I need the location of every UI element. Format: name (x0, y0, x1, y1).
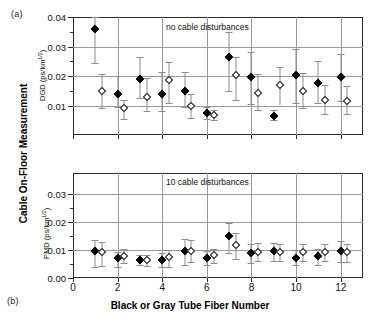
error-bar-cap (344, 262, 351, 263)
error-bar-cap (232, 100, 239, 101)
error-bar-cap (121, 100, 128, 101)
error-bar-cap (277, 261, 284, 262)
data-point-open-diamond (232, 241, 240, 249)
data-point-open-diamond (276, 248, 284, 256)
error-bar-cap (299, 261, 306, 262)
chart-panel-b: 0.000.010.020.03024681012 10 cable distu… (73, 173, 363, 278)
error-bar-cap (114, 267, 121, 268)
error-bar-cap (99, 74, 106, 75)
data-layer-b (73, 173, 363, 278)
x-tick-label: 12 (335, 282, 346, 293)
x-tick (118, 135, 119, 139)
data-point-filled-diamond (113, 89, 121, 97)
data-point-filled-diamond (270, 112, 278, 120)
x-tick-label: 4 (159, 282, 165, 293)
error-bar-cap (159, 111, 166, 112)
y-tick-label: 0.01 (48, 100, 67, 111)
data-point-open-diamond (343, 97, 351, 105)
error-bar-cap (181, 72, 188, 73)
error-bar-cap (165, 103, 172, 104)
error-bar-cap (248, 244, 255, 245)
error-bar-cap (99, 108, 106, 109)
x-tick (73, 135, 74, 139)
error-bar-cap (255, 110, 262, 111)
y-tick-label: 0.03 (48, 41, 67, 52)
y-axis-title-a: DGD (ps/km1/2) (37, 32, 48, 118)
error-bar-cap (255, 74, 262, 75)
error-bar-cap (344, 86, 351, 87)
data-point-filled-diamond (158, 89, 166, 97)
error-bar-cap (99, 242, 106, 243)
error-bar-cap (232, 259, 239, 260)
error-bar-cap (293, 103, 300, 104)
error-bar-cap (226, 91, 233, 92)
error-bar-cap (92, 267, 99, 268)
error-bar-cap (114, 76, 121, 77)
error-bar-cap (232, 57, 239, 58)
error-bar-cap (344, 244, 351, 245)
data-point-filled-diamond (314, 79, 322, 87)
error-bar-cap (337, 241, 344, 242)
error-bar-cap (337, 54, 344, 55)
data-point-open-diamond (254, 89, 262, 97)
data-point-open-diamond (343, 248, 351, 256)
x-tick (341, 135, 342, 139)
x-tick (207, 135, 208, 139)
y-axis-title-b: PMD (ps/km1/2) (41, 189, 52, 277)
error-bar-cap (315, 103, 322, 104)
y-tick-label: 0.04 (48, 12, 67, 23)
data-point-open-diamond (165, 75, 173, 83)
error-bar-cap (143, 78, 150, 79)
error-bar-cap (99, 266, 106, 267)
error-bar-cap (322, 261, 329, 262)
data-point-open-diamond (142, 93, 150, 101)
error-bar-cap (210, 120, 217, 121)
error-bar-cap (299, 73, 306, 74)
error-bar-cap (188, 118, 195, 119)
chart-panel-a: 0.010.020.030.04 no cable disturbances (73, 17, 363, 135)
error-bar-cap (322, 85, 329, 86)
error-bar-cap (181, 265, 188, 266)
x-axis-title: Black or Gray Tube Fiber Number (0, 300, 380, 311)
data-layer-a (73, 17, 363, 135)
error-bar-cap (136, 98, 143, 99)
error-bar-cap (121, 263, 128, 264)
figure-y-axis-title: Cable On-Floor Measurement (18, 79, 29, 229)
error-bar-cap (299, 244, 306, 245)
error-bar-cap (293, 49, 300, 50)
error-bar-cap (315, 265, 322, 266)
data-point-open-diamond (120, 104, 128, 112)
error-bar-cap (165, 250, 172, 251)
error-bar-cap (226, 253, 233, 254)
error-bar-cap (248, 104, 255, 105)
error-bar-cap (226, 223, 233, 224)
error-bar-cap (322, 244, 329, 245)
error-bar-cap (136, 57, 143, 58)
data-point-open-diamond (276, 81, 284, 89)
error-bar-cap (232, 233, 239, 234)
error-bar-cap (159, 253, 166, 254)
x-tick-label: 0 (70, 282, 76, 293)
error-bar-cap (143, 111, 150, 112)
annotation-a: no cable disturbances (166, 22, 249, 32)
data-point-open-diamond (232, 70, 240, 78)
error-bar-cap (92, 17, 99, 18)
x-tick-label: 8 (249, 282, 255, 293)
x-tick-label: 6 (204, 282, 210, 293)
data-point-filled-diamond (336, 73, 344, 81)
error-bar-cap (121, 119, 128, 120)
data-point-open-diamond (187, 246, 195, 254)
error-bar-cap (277, 67, 284, 68)
error-bar-cap (165, 267, 172, 268)
data-point-open-diamond (299, 87, 307, 95)
x-tick (162, 135, 163, 139)
panel-label-a: (a) (11, 9, 23, 19)
error-bar-cap (188, 262, 195, 263)
error-bar-cap (92, 63, 99, 64)
x-tick (251, 135, 252, 139)
data-point-open-diamond (321, 95, 329, 103)
figure-root: (a) (b) Cable On-Floor Measurement 0.010… (0, 0, 380, 320)
y-tick-label: 0.02 (48, 71, 67, 82)
x-tick (296, 135, 297, 139)
data-point-open-diamond (187, 102, 195, 110)
